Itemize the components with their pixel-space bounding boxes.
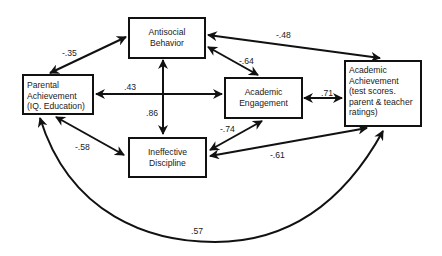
path-diagram: Parental Achievement (IQ. Education) Ant… (0, 0, 442, 256)
node-antisocial-behavior: Antisocial Behavior (128, 17, 206, 59)
node-academic-achievement: Academic Achievement (test scores. paren… (344, 60, 422, 127)
edge-antisocial-achievement (208, 35, 380, 58)
coef-antisocial-discipline: .86 (146, 108, 158, 118)
node-label-line: ratings) (349, 107, 420, 118)
node-label-line: parent & teacher (349, 97, 420, 108)
coef-antisocial-engagement: -.64 (239, 56, 254, 66)
node-label-line: Ineffective (148, 147, 187, 158)
edge-discipline-engagement (210, 121, 262, 150)
coef-parental-achievement: .57 (191, 226, 203, 236)
node-label-line: (test scores. (349, 86, 420, 97)
node-label-line: Parental (27, 80, 92, 91)
node-label-line: (IQ. Education) (27, 101, 92, 112)
coef-discipline-achievement: -.61 (270, 150, 285, 160)
node-label-line: Achievement (349, 76, 420, 87)
node-label-line: Discipline (149, 158, 186, 169)
coef-parental-engagement: .43 (124, 82, 136, 92)
node-parental-achievement: Parental Achievement (IQ. Education) (22, 74, 94, 115)
node-label-line: Engagement (239, 98, 288, 109)
node-ineffective-discipline: Ineffective Discipline (128, 137, 207, 178)
coef-parental-antisocial: -.35 (62, 48, 77, 58)
coef-discipline-engagement: -.74 (220, 124, 235, 134)
node-label-line: Achievement (27, 91, 92, 102)
edge-parental-discipline (56, 117, 124, 155)
node-label-line: Academic (245, 87, 283, 98)
coef-parental-discipline: -.58 (75, 142, 90, 152)
node-label-line: Academic (349, 65, 420, 76)
coef-antisocial-achievement: -.48 (276, 30, 291, 40)
node-label-line: Antisocial (149, 27, 186, 38)
node-label-line: Behavior (150, 38, 184, 49)
node-academic-engagement: Academic Engagement (224, 77, 303, 119)
coef-engagement-achievement: .71 (321, 88, 333, 98)
